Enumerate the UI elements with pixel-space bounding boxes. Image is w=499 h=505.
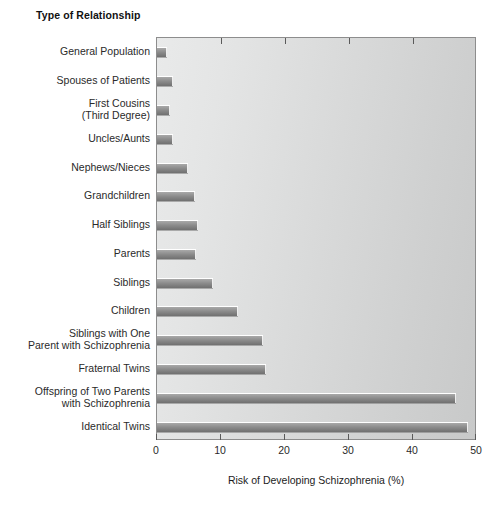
x-axis-top-tick-mark <box>349 38 350 44</box>
y-axis-label: General Population <box>2 45 150 57</box>
y-axis-label: First Cousins (Third Degree) <box>2 97 150 121</box>
bar <box>157 220 198 230</box>
bar <box>157 249 196 259</box>
x-axis-top-tick-mark <box>413 38 414 44</box>
plot-area <box>157 38 475 439</box>
bar <box>157 191 195 201</box>
x-axis-tick-label: 0 <box>153 444 159 456</box>
x-axis-tick-mark <box>284 434 285 440</box>
y-axis-label: Offspring of Two Parents with Schizophre… <box>2 385 150 409</box>
y-axis-label: Siblings <box>2 276 150 288</box>
x-axis-tick-label: 30 <box>342 444 354 456</box>
x-axis-tick-mark <box>475 434 476 440</box>
y-axis-label: Identical Twins <box>2 420 150 432</box>
plot-frame <box>156 37 476 440</box>
x-axis-tick-mark <box>412 434 413 440</box>
x-axis-tick-label: 10 <box>214 444 226 456</box>
x-axis-tick-mark <box>156 434 157 440</box>
y-axis-label: Uncles/Aunts <box>2 132 150 144</box>
x-axis-tick-label: 20 <box>278 444 290 456</box>
y-axis-label: Children <box>2 304 150 316</box>
y-axis-label: Fraternal Twins <box>2 362 150 374</box>
y-axis-category-labels: General PopulationSpouses of PatientsFir… <box>0 37 150 440</box>
x-axis-ticks: 01020304050 <box>156 440 476 470</box>
y-axis-label: Spouses of Patients <box>2 74 150 86</box>
y-axis-label: Siblings with One Parent with Schizophre… <box>2 327 150 351</box>
y-axis-label: Half Siblings <box>2 218 150 230</box>
bar <box>157 306 238 316</box>
y-axis-label: Grandchildren <box>2 189 150 201</box>
x-axis-tick-mark <box>220 434 221 440</box>
bar <box>157 134 173 144</box>
x-axis-tick-label: 40 <box>406 444 418 456</box>
x-axis-tick-label: 50 <box>470 444 482 456</box>
bar <box>157 335 263 345</box>
x-axis-top-tick-mark <box>221 38 222 44</box>
bar <box>157 163 188 173</box>
bar <box>157 393 456 403</box>
y-axis-label: Parents <box>2 247 150 259</box>
x-axis-top-tick-mark <box>285 38 286 44</box>
bar <box>157 47 167 57</box>
bar <box>157 278 213 288</box>
x-axis-top-tick-mark <box>475 38 476 44</box>
bar <box>157 105 170 115</box>
y-axis-title: Type of Relationship <box>36 9 140 21</box>
x-axis-title: Risk of Developing Schizophrenia (%) <box>156 474 476 486</box>
bar <box>157 76 173 86</box>
y-axis-label: Nephews/Nieces <box>2 161 150 173</box>
bar <box>157 422 468 432</box>
x-axis-tick-mark <box>348 434 349 440</box>
bar <box>157 364 266 374</box>
